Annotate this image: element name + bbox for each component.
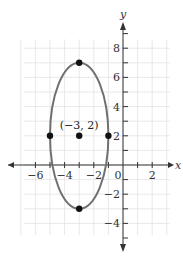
x-tick-label: −4	[56, 169, 72, 182]
y-tick-label: −2	[104, 188, 120, 201]
grid-lines	[21, 39, 170, 235]
x-tick-label: −6	[27, 169, 43, 182]
axes	[8, 22, 174, 252]
data-point	[47, 133, 53, 139]
y-tick-label: −4	[104, 217, 120, 230]
x-tick-label: 2	[149, 169, 156, 182]
y-axis-arrow-icon	[120, 22, 126, 30]
y-tick-label: 8	[113, 42, 120, 55]
x-axis-arrow-left-icon	[8, 162, 14, 168]
x-axis-label: x	[175, 159, 182, 172]
x-tick-label: 0	[115, 169, 122, 182]
y-tick-label: 6	[113, 71, 120, 84]
y-tick-label: 2	[113, 130, 120, 143]
data-point	[76, 133, 82, 139]
data-point	[76, 60, 82, 66]
y-axis-label: y	[119, 8, 127, 21]
y-tick-label: 4	[113, 101, 120, 114]
y-axis-arrow-down-icon	[120, 244, 126, 252]
data-point	[105, 133, 111, 139]
x-axis-arrow-icon	[168, 162, 174, 168]
center-point-label: (−3, 2)	[60, 119, 99, 132]
ellipse-graph: −6−4−202−4−22468xy(−3, 2)	[0, 0, 183, 262]
x-tick-label: −2	[86, 169, 102, 182]
data-point	[76, 206, 82, 212]
